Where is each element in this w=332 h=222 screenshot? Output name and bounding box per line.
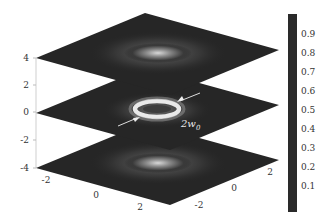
svg-text:0: 0 [231, 183, 237, 193]
svg-text:-2: -2 [42, 175, 51, 185]
svg-text:0: 0 [23, 107, 29, 117]
svg-text:0.7: 0.7 [301, 67, 316, 77]
z-tick-4: 4 [23, 53, 36, 63]
z-tick-2: 2 [23, 80, 36, 90]
svg-text:2: 2 [23, 80, 29, 90]
svg-text:0: 0 [93, 190, 99, 200]
svg-text:2: 2 [137, 202, 143, 212]
svg-text:0.6: 0.6 [301, 86, 316, 96]
z-tick-neg2: -2 [20, 135, 36, 145]
z-tick-0: 0 [23, 107, 36, 117]
svg-text:0.3: 0.3 [301, 143, 316, 153]
svg-text:0.2: 0.2 [301, 162, 315, 172]
z-tick-neg4: -4 [20, 163, 36, 173]
svg-text:0.4: 0.4 [301, 124, 316, 134]
svg-text:0.8: 0.8 [301, 48, 316, 58]
svg-text:0.5: 0.5 [301, 105, 316, 115]
z-axis: 4 2 0 -2 -4 [20, 53, 36, 173]
svg-text:0.1: 0.1 [301, 181, 315, 191]
svg-text:4: 4 [23, 53, 29, 63]
plane-z-4 [36, 13, 279, 95]
colorbar: 0.9 0.8 0.7 0.6 0.5 0.4 0.3 0.2 0.1 [288, 14, 316, 212]
figure: 4 2 0 -2 -4 2w0 -2 0 2 [0, 0, 332, 222]
svg-text:-2: -2 [195, 200, 204, 210]
svg-text:0.9: 0.9 [301, 29, 316, 39]
svg-text:2: 2 [267, 167, 273, 177]
svg-text:-2: -2 [20, 135, 29, 145]
svg-text:-4: -4 [20, 163, 29, 173]
